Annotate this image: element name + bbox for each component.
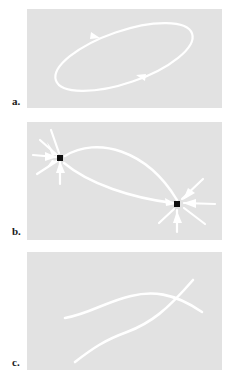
- panel-c: [27, 252, 222, 370]
- spoke-right-se: [184, 208, 205, 224]
- arrowhead-right-s-icon: [173, 211, 182, 223]
- ellipse-orbit: [47, 9, 200, 105]
- panel-a-graphic: [27, 9, 222, 108]
- panel-label-c: c.: [12, 357, 20, 368]
- panel-a: [27, 9, 222, 108]
- spoke-right-sw: [159, 209, 174, 223]
- curve-shallow: [65, 293, 202, 318]
- arrowhead-right-e-icon: [183, 199, 196, 208]
- panel-label-b: b.: [12, 226, 21, 237]
- arrowhead-left-sw-icon: [45, 160, 56, 170]
- panel-c-graphic: [27, 252, 222, 370]
- arrowhead-upper-left-icon: [90, 32, 100, 39]
- panel-b-graphic: [27, 122, 222, 240]
- curve-steep: [75, 280, 193, 362]
- panel-b: [27, 122, 222, 240]
- ellipse-orbit-group: [47, 9, 200, 105]
- arc-lower: [64, 163, 173, 203]
- node-left: [57, 155, 63, 161]
- node-right: [174, 201, 180, 207]
- figure-root: a.: [0, 0, 236, 389]
- panel-label-a: a.: [12, 96, 20, 107]
